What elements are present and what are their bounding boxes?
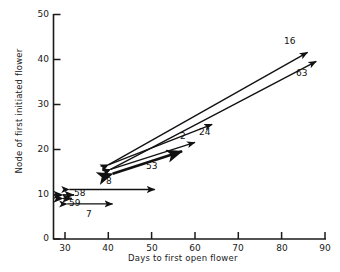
y-tick-label-30: 30 [27, 99, 49, 109]
x-tick-label-50: 50 [140, 243, 164, 253]
axis-lines [54, 14, 327, 240]
series-label-7: 7 [86, 209, 92, 219]
series-label-58: 58 [74, 188, 85, 198]
chart-figure: 50 40 30 20 10 0 30 40 50 60 70 80 90 16… [0, 0, 340, 272]
series-label-63: 63 [296, 68, 307, 78]
series-label-8: 8 [106, 176, 112, 186]
series-label-53: 53 [146, 161, 157, 171]
x-tick-label-30: 30 [53, 243, 77, 253]
y-axis-title: Node of first initiated flower [14, 36, 24, 186]
y-axis-ticks [54, 15, 61, 240]
series-label-24: 24 [199, 127, 210, 137]
x-tick-label-90: 90 [313, 243, 337, 253]
series-arrows [108, 52, 316, 174]
y-tick-label-50: 50 [27, 9, 49, 19]
x-axis-title: Days to first open flower [128, 253, 238, 263]
y-tick-label-20: 20 [27, 144, 49, 154]
series-label-16: 16 [284, 36, 295, 46]
y-tick-label-0: 0 [27, 233, 49, 243]
x-tick-label-60: 60 [183, 243, 207, 253]
x-tick-label-40: 40 [96, 243, 120, 253]
series-label-59: 59 [69, 198, 80, 208]
x-axis-ticks [65, 232, 325, 239]
y-tick-label-10: 10 [27, 189, 49, 199]
x-tick-label-70: 70 [226, 243, 250, 253]
x-tick-label-80: 80 [270, 243, 294, 253]
y-tick-label-40: 40 [27, 54, 49, 64]
series-line-63 [111, 61, 317, 169]
series-line-16 [108, 52, 307, 165]
series-label-2: 2 [180, 131, 186, 141]
